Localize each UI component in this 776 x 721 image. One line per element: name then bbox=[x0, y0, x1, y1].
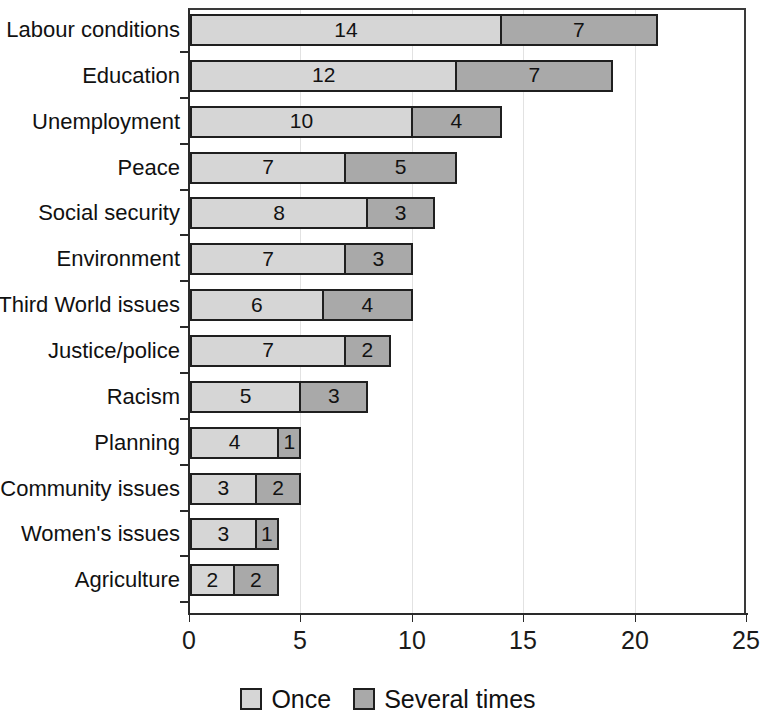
bar-row: 64 bbox=[190, 289, 413, 321]
ytick-mark bbox=[180, 51, 188, 53]
bar-segment-several-times: 1 bbox=[277, 427, 301, 459]
bar-segment-several-times: 1 bbox=[255, 518, 279, 550]
bar-value-label: 3 bbox=[395, 202, 407, 223]
bar-row: 53 bbox=[190, 381, 368, 413]
category-label-education: Education bbox=[82, 63, 180, 89]
xtick-mark-10 bbox=[412, 613, 413, 622]
bar-row: 31 bbox=[190, 518, 279, 550]
bar-segment-once: 3 bbox=[190, 473, 257, 505]
category-label-third-world-issues: Third World issues bbox=[0, 292, 180, 318]
legend-swatch-once-icon bbox=[240, 688, 262, 710]
ytick-mark bbox=[180, 143, 188, 145]
ytick-mark bbox=[180, 601, 188, 603]
bar-value-label: 7 bbox=[262, 248, 274, 269]
bar-segment-several-times: 2 bbox=[344, 335, 391, 367]
bar-segment-once: 4 bbox=[190, 427, 279, 459]
bar-value-label: 2 bbox=[250, 569, 262, 590]
bar-value-label: 7 bbox=[262, 339, 274, 360]
ytick-mark bbox=[180, 189, 188, 191]
bar-segment-once: 14 bbox=[190, 14, 502, 46]
xtick-mark-0 bbox=[189, 613, 190, 622]
xtick-label-15: 15 bbox=[483, 626, 563, 654]
category-label-agriculture: Agriculture bbox=[75, 567, 180, 593]
bar-row: 83 bbox=[190, 197, 435, 229]
bar-value-label: 4 bbox=[451, 110, 463, 131]
bar-row: 127 bbox=[190, 60, 613, 92]
xtick-label-10: 10 bbox=[372, 626, 452, 654]
bar-value-label: 7 bbox=[573, 19, 585, 40]
category-label-justice-police: Justice/police bbox=[48, 338, 180, 364]
ytick-mark bbox=[180, 326, 188, 328]
bar-value-label: 12 bbox=[312, 64, 335, 85]
bar-value-label: 2 bbox=[206, 569, 218, 590]
xtick-label-5: 5 bbox=[260, 626, 340, 654]
bar-value-label: 1 bbox=[261, 523, 273, 544]
xtick-mark-5 bbox=[300, 613, 301, 622]
xtick-mark-20 bbox=[635, 613, 636, 622]
xtick-label-0: 0 bbox=[149, 626, 229, 654]
xtick-label-20: 20 bbox=[595, 626, 675, 654]
bar-segment-several-times: 3 bbox=[299, 381, 368, 413]
category-label-racism: Racism bbox=[107, 384, 180, 410]
category-label-planning: Planning bbox=[94, 430, 180, 456]
ytick-mark bbox=[180, 97, 188, 99]
bar-row: 104 bbox=[190, 106, 502, 138]
bar-row: 75 bbox=[190, 152, 457, 184]
bar-value-label: 6 bbox=[251, 294, 263, 315]
bar-value-label: 3 bbox=[328, 385, 340, 406]
ytick-mark bbox=[180, 372, 188, 374]
bar-value-label: 2 bbox=[272, 477, 284, 498]
bar-segment-once: 3 bbox=[190, 518, 257, 550]
bar-segment-once: 7 bbox=[190, 152, 346, 184]
bar-value-label: 7 bbox=[262, 156, 274, 177]
xtick-mark-25 bbox=[746, 613, 747, 622]
bar-value-label: 5 bbox=[395, 156, 407, 177]
ytick-mark bbox=[180, 464, 188, 466]
bar-segment-once: 7 bbox=[190, 335, 346, 367]
bar-row: 147 bbox=[190, 14, 658, 46]
bar-value-label: 8 bbox=[273, 202, 285, 223]
bar-segment-once: 8 bbox=[190, 197, 368, 229]
ytick-mark bbox=[180, 555, 188, 557]
category-label-women-s-issues: Women's issues bbox=[21, 521, 180, 547]
legend-item-once: Once bbox=[240, 686, 331, 712]
bar-value-label: 14 bbox=[334, 19, 357, 40]
bar-row: 22 bbox=[190, 564, 279, 596]
category-label-peace: Peace bbox=[118, 155, 180, 181]
legend-label-several-times: Several times bbox=[384, 686, 535, 712]
bar-value-label: 3 bbox=[373, 248, 385, 269]
bar-segment-several-times: 2 bbox=[255, 473, 302, 505]
bar-value-label: 3 bbox=[218, 523, 230, 544]
bar-segment-once: 10 bbox=[190, 106, 413, 138]
stacked-bar-chart: Labour conditions147Education127Unemploy… bbox=[0, 0, 776, 721]
bar-value-label: 10 bbox=[290, 110, 313, 131]
bar-row: 73 bbox=[190, 243, 413, 275]
legend-item-several-times: Several times bbox=[353, 686, 535, 712]
bar-segment-several-times: 7 bbox=[455, 60, 613, 92]
category-label-labour-conditions: Labour conditions bbox=[6, 17, 180, 43]
ytick-mark bbox=[180, 418, 188, 420]
bar-segment-once: 2 bbox=[190, 564, 235, 596]
bar-value-label: 3 bbox=[218, 477, 230, 498]
x-axis-line bbox=[188, 613, 748, 615]
legend-label-once: Once bbox=[271, 686, 331, 712]
chart-legend: Once Several times bbox=[0, 686, 776, 712]
xtick-mark-15 bbox=[523, 613, 524, 622]
bar-value-label: 5 bbox=[240, 385, 252, 406]
ytick-mark bbox=[180, 234, 188, 236]
bar-segment-several-times: 3 bbox=[344, 243, 413, 275]
category-label-social-security: Social security bbox=[38, 200, 180, 226]
bar-segment-several-times: 4 bbox=[322, 289, 413, 321]
bar-segment-several-times: 7 bbox=[500, 14, 658, 46]
ytick-mark bbox=[180, 280, 188, 282]
bar-segment-several-times: 3 bbox=[366, 197, 435, 229]
bar-segment-several-times: 2 bbox=[233, 564, 280, 596]
bar-segment-several-times: 5 bbox=[344, 152, 457, 184]
bar-row: 72 bbox=[190, 335, 391, 367]
bar-value-label: 4 bbox=[361, 294, 373, 315]
legend-swatch-several-times-icon bbox=[353, 688, 375, 710]
bar-segment-several-times: 4 bbox=[411, 106, 502, 138]
bar-row: 41 bbox=[190, 427, 301, 459]
bar-row: 32 bbox=[190, 473, 301, 505]
bar-value-label: 2 bbox=[361, 339, 373, 360]
